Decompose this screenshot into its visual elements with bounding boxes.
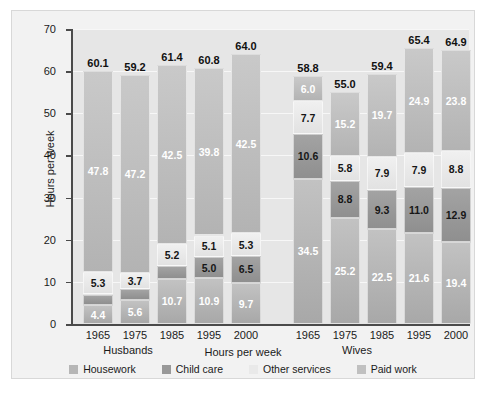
bar-segment: 4.4 [83, 305, 113, 324]
bar-segment-value: 47.2 [121, 169, 149, 180]
bar-segment: 6.0 [293, 76, 323, 101]
bar-segment: 25.2 [330, 218, 360, 324]
bar-segment-value: 3.7 [121, 276, 149, 287]
bar-total-label: 64.9 [434, 36, 478, 48]
bar-segment-value: 5.3 [84, 278, 112, 289]
bar-segment-value: 22.5 [368, 271, 396, 282]
bar-segment: 34.5 [293, 179, 323, 324]
bar-segment: 10.9 [194, 278, 224, 324]
bar-segment: 10.7 [157, 279, 187, 324]
legend-item[interactable]: Housework [69, 363, 136, 375]
bar-segment: 9.3 [367, 190, 397, 229]
bar-segment: 42.5 [157, 65, 187, 244]
bar-segment: 7.9 [404, 153, 434, 186]
bar-segment: 2.7 [120, 289, 150, 300]
bar-segment: 3.0 [157, 266, 187, 279]
bar-segment: 7.9 [367, 157, 397, 190]
bar-segment-value: 25.2 [331, 266, 359, 277]
bar-segment: 24.9 [404, 48, 434, 153]
bar-segment-value: 24.9 [405, 96, 433, 107]
bar-segment: 5.8 [330, 156, 360, 180]
bar-segment-value: 7.7 [294, 112, 322, 123]
bar-segment-value: 39.8 [195, 146, 223, 157]
bar-segment-value: 9.7 [232, 298, 260, 309]
bar-segment: 21.6 [404, 233, 434, 324]
legend-item[interactable]: Child care [162, 363, 223, 375]
bar-segment-value: 42.5 [158, 150, 186, 161]
bar-segment: 19.7 [367, 74, 397, 157]
legend-item-label: Child care [176, 363, 223, 375]
bar-segment: 15.2 [330, 92, 360, 156]
bar-segment-value: 5.6 [121, 307, 149, 318]
bar-segment-value: 10.6 [294, 151, 322, 162]
legend-item-label: Paid work [371, 363, 417, 375]
bar-segment: 6.5 [231, 256, 261, 283]
bar-segment-value: 11.0 [405, 205, 433, 216]
bar-segment-value: 47.8 [84, 166, 112, 177]
bar-segment-value: 6.5 [232, 264, 260, 275]
bar-segment: 5.6 [120, 300, 150, 324]
y-tick-label: 20 [12, 234, 56, 246]
bar-segment: 23.8 [441, 50, 471, 150]
bar-segment: 5.3 [83, 272, 113, 294]
x-axis-title: Hours per week [12, 346, 474, 358]
y-tick-label: 0 [12, 318, 56, 330]
bar-segment-value: 10.7 [158, 296, 186, 307]
bar-segment: 5.2 [157, 244, 187, 266]
bar-total-label: 64.0 [224, 40, 268, 52]
bar-segment: 12.9 [441, 188, 471, 242]
bars-layer: 4.42.65.347.860.15.62.73.747.259.210.73.… [71, 29, 469, 324]
bar-segment: 9.7 [231, 283, 261, 324]
chart-container: 010203040506070 Hours per week 4.42.65.3… [0, 0, 484, 393]
y-tick-label: 70 [12, 23, 56, 35]
legend-item[interactable]: Other services [249, 363, 331, 375]
bar-segment: 39.8 [194, 68, 224, 236]
bar-segment: 11.0 [404, 187, 434, 233]
legend-item-label: Other services [263, 363, 331, 375]
bar-segment: 22.5 [367, 229, 397, 324]
bar-segment-value: 5.3 [232, 239, 260, 250]
y-tick-label: 60 [12, 65, 56, 77]
bar-segment-value: 8.8 [442, 164, 470, 175]
bar-segment: 47.2 [120, 75, 150, 274]
bar-segment-value: 12.9 [442, 210, 470, 221]
bar-segment-value: 5.8 [331, 163, 359, 174]
bar-segment-value: 5.2 [158, 250, 186, 261]
bar-segment: 5.0 [194, 257, 224, 278]
bar-segment: 7.7 [293, 101, 323, 133]
bar-segment-value: 10.9 [195, 296, 223, 307]
bar-segment-value: 7.9 [368, 168, 396, 179]
bar-segment-value: 23.8 [442, 95, 470, 106]
bar-segment-value: 4.4 [84, 309, 112, 320]
childcare-swatch [162, 365, 171, 374]
y-tick-label: 10 [12, 276, 56, 288]
bar-total-label: 58.8 [286, 62, 330, 74]
other-services-swatch [249, 365, 258, 374]
bar-segment: 19.4 [441, 242, 471, 324]
bar-segment: 5.3 [231, 233, 261, 255]
bar-segment: 10.6 [293, 134, 323, 179]
x-tick-label: 2000 [224, 329, 268, 341]
bar-segment: 3.7 [120, 273, 150, 289]
legend-item[interactable]: Paid work [357, 363, 417, 375]
bar-segment: 2.6 [83, 295, 113, 306]
bar-segment-value: 6.0 [294, 84, 322, 95]
y-axis-title: Hours per week [44, 109, 56, 229]
paid-work-swatch [357, 365, 366, 374]
bar-total-label: 60.8 [187, 54, 231, 66]
bar-segment-value: 19.4 [442, 278, 470, 289]
bar-segment-value: 9.3 [368, 204, 396, 215]
bar-segment: 42.5 [231, 54, 261, 233]
bar-segment: 8.8 [330, 181, 360, 218]
bar-segment-value: 19.7 [368, 110, 396, 121]
bar-segment-value: 7.9 [405, 165, 433, 176]
bar-total-label: 59.4 [360, 60, 404, 72]
bar-segment-value: 5.1 [195, 241, 223, 252]
bar-segment-value: 42.5 [232, 139, 260, 150]
bar-segment-value: 8.8 [331, 194, 359, 205]
legend-item-label: Housework [83, 363, 136, 375]
bar-segment: 5.1 [194, 236, 224, 257]
chart-panel: 010203040506070 Hours per week 4.42.65.3… [11, 10, 475, 379]
housework-swatch [69, 365, 78, 374]
bar-segment-value: 21.6 [405, 273, 433, 284]
